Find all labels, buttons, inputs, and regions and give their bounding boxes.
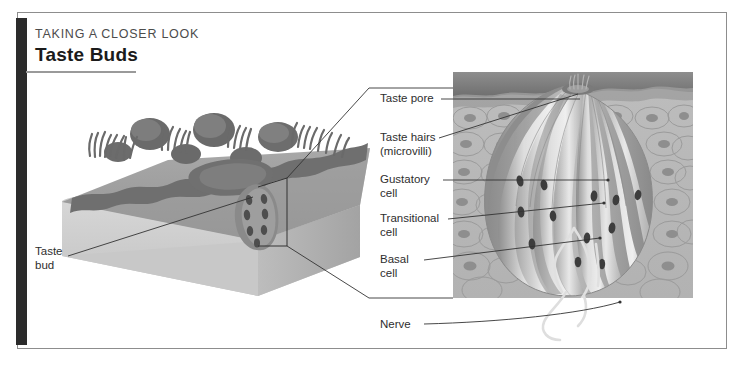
title-underline xyxy=(26,71,136,73)
figure-page: TAKING A CLOSER LOOK Taste Buds xyxy=(0,0,745,365)
label-gustatory-cell: Gustatory cell xyxy=(380,173,430,200)
label-taste-hairs: Taste hairs (microvilli) xyxy=(380,131,436,158)
page-title: Taste Buds xyxy=(35,44,138,66)
figure-kicker: TAKING A CLOSER LOOK xyxy=(35,27,199,41)
label-taste-bud: Taste bud xyxy=(35,245,63,272)
label-nerve: Nerve xyxy=(380,318,411,332)
label-basal-cell: Basal cell xyxy=(380,253,409,280)
label-transitional-cell: Transitional cell xyxy=(380,212,439,239)
left-spine-bar xyxy=(16,18,27,345)
label-taste-pore: Taste pore xyxy=(380,92,434,106)
